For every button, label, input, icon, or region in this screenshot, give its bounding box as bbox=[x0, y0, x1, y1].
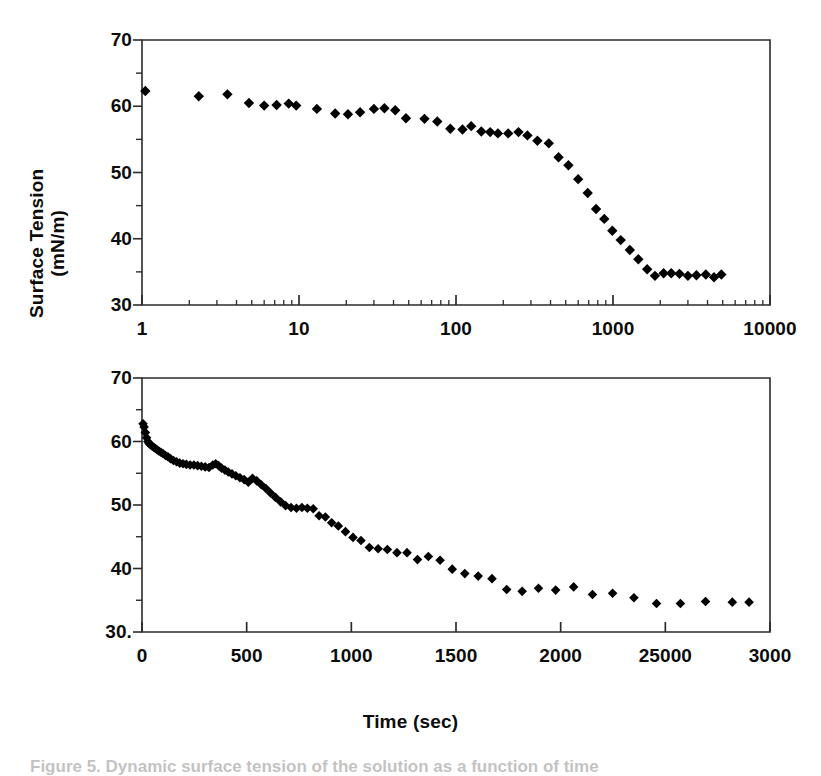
data-point bbox=[457, 124, 467, 134]
data-point bbox=[435, 555, 445, 565]
x-tick-label: 500 bbox=[231, 645, 263, 667]
data-point bbox=[284, 98, 294, 108]
data-point bbox=[616, 235, 626, 245]
y-tick-label: 40 bbox=[80, 558, 132, 580]
chart-panel-top: Surface Tension (mN/m) 30405060701101001… bbox=[0, 18, 821, 358]
data-point bbox=[629, 593, 639, 603]
data-point bbox=[365, 543, 375, 553]
y-tick-label: 60 bbox=[80, 431, 132, 453]
y-axis-title-top-line2: (mN/m) bbox=[47, 169, 68, 318]
y-tick-label: 70 bbox=[80, 367, 132, 389]
data-point bbox=[642, 264, 652, 274]
data-point bbox=[390, 105, 400, 115]
data-point bbox=[343, 109, 353, 119]
data-point bbox=[633, 254, 643, 264]
data-point bbox=[432, 116, 442, 126]
data-series bbox=[138, 419, 754, 608]
data-point bbox=[341, 527, 351, 537]
figure-caption: Figure 5. Dynamic surface tension of the… bbox=[30, 757, 800, 776]
data-point bbox=[493, 128, 503, 138]
x-tick-label: 1000 bbox=[330, 645, 373, 667]
data-point bbox=[476, 126, 486, 136]
y-axis-title-top: Surface Tension (mN/m) bbox=[26, 169, 69, 318]
data-point bbox=[379, 103, 389, 113]
y-tick-label: 40 bbox=[80, 228, 132, 250]
data-point bbox=[413, 555, 423, 565]
x-tick-label: 10 bbox=[288, 318, 309, 340]
y-tick-label: 30. bbox=[80, 621, 132, 643]
data-point bbox=[485, 127, 495, 137]
x-tick-label: 1500 bbox=[435, 645, 478, 667]
data-point bbox=[573, 174, 583, 184]
data-point bbox=[355, 107, 365, 117]
data-point bbox=[259, 100, 269, 110]
data-point bbox=[652, 599, 662, 609]
data-point bbox=[532, 136, 542, 146]
figure-container: Surface Tension (mN/m) 30405060701101001… bbox=[0, 0, 821, 776]
data-point bbox=[447, 564, 457, 574]
y-tick-label: 70 bbox=[80, 29, 132, 51]
data-point bbox=[676, 599, 686, 609]
y-tick-label: 60 bbox=[80, 95, 132, 117]
data-point bbox=[650, 271, 660, 281]
data-point bbox=[244, 98, 254, 108]
data-point bbox=[691, 270, 701, 280]
x-axis-title: Time (sec) bbox=[0, 711, 821, 733]
data-point bbox=[701, 597, 711, 607]
data-point bbox=[534, 583, 544, 593]
data-point bbox=[588, 590, 598, 600]
data-point bbox=[569, 582, 579, 592]
y-tick-label: 50 bbox=[80, 494, 132, 516]
data-point bbox=[222, 89, 232, 99]
data-point bbox=[728, 597, 738, 607]
data-point bbox=[503, 128, 513, 138]
data-point bbox=[487, 574, 497, 584]
data-point bbox=[321, 512, 331, 522]
chart-panel-bottom: Surface Tension (mN/m) 30.40506070050010… bbox=[0, 360, 821, 680]
data-point bbox=[194, 91, 204, 101]
data-point bbox=[666, 268, 676, 278]
x-tick-label: 10000 bbox=[743, 318, 796, 340]
data-point bbox=[563, 160, 573, 170]
data-point bbox=[674, 269, 684, 279]
data-point bbox=[591, 204, 601, 214]
data-series bbox=[140, 86, 726, 283]
data-point bbox=[502, 585, 512, 595]
x-tick-label: 2000 bbox=[539, 645, 582, 667]
x-tick-label: 25000 bbox=[639, 645, 692, 667]
data-point bbox=[683, 271, 693, 281]
data-point bbox=[701, 269, 711, 279]
data-point bbox=[582, 188, 592, 198]
data-point bbox=[460, 569, 470, 579]
data-point bbox=[401, 113, 411, 123]
data-point bbox=[522, 130, 532, 140]
data-point bbox=[291, 100, 301, 110]
data-point bbox=[517, 587, 527, 597]
data-point bbox=[369, 104, 379, 114]
data-point bbox=[373, 544, 383, 554]
data-point bbox=[473, 571, 483, 581]
data-point bbox=[553, 152, 563, 162]
data-point bbox=[625, 245, 635, 255]
y-tick-label: 50 bbox=[80, 162, 132, 184]
data-point bbox=[608, 588, 618, 598]
data-point bbox=[599, 214, 609, 224]
y-axis-title-top-line1: Surface Tension bbox=[26, 169, 47, 318]
data-point bbox=[392, 548, 402, 558]
y-tick-label: 30 bbox=[80, 294, 132, 316]
data-point bbox=[424, 552, 434, 562]
data-point bbox=[607, 226, 617, 236]
data-point bbox=[308, 504, 318, 514]
data-point bbox=[551, 585, 561, 595]
x-tick-label: 1 bbox=[137, 318, 148, 340]
x-tick-label: 1000 bbox=[592, 318, 635, 340]
data-point bbox=[544, 138, 554, 148]
data-point bbox=[402, 548, 412, 558]
data-point bbox=[271, 100, 281, 110]
data-point bbox=[445, 124, 455, 134]
data-point bbox=[744, 597, 754, 607]
data-point bbox=[466, 121, 476, 131]
data-point bbox=[330, 108, 340, 118]
data-point bbox=[513, 127, 523, 137]
x-tick-label: 100 bbox=[440, 318, 472, 340]
